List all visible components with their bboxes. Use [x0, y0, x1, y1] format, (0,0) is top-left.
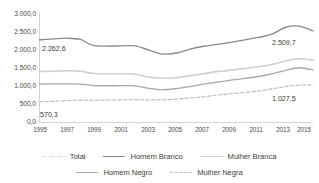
- legend-swatch-homem-branco: [103, 156, 125, 157]
- x-axis-tick-label: 2001: [109, 126, 133, 133]
- legend-swatch-total: [43, 156, 65, 157]
- legend-item-total[interactable]: Total: [43, 152, 86, 161]
- x-axis-tick-label: 2007: [190, 126, 214, 133]
- legend-item-mulher-branca[interactable]: Mulher Branca: [201, 152, 277, 161]
- x-axis-tick-label: 2015: [292, 126, 316, 133]
- legend-item-homem-negro[interactable]: Homem Negro: [76, 168, 152, 177]
- legend-label-mulher-negra: Mulher Negra: [197, 168, 242, 177]
- x-axis-tick-label: 1995: [28, 126, 52, 133]
- legend-item-mulher-negra[interactable]: Mulher Negra: [170, 168, 242, 177]
- x-axis-tick-label: 1997: [55, 126, 79, 133]
- data-label-mulher-negra-start: 570,3: [40, 110, 58, 119]
- series-line-total: [40, 59, 314, 78]
- x-axis-tick-label: 2009: [217, 126, 241, 133]
- line-chart: 3.000,0 2.500,0 2.000,0 1.500,0 1.000,0 …: [0, 0, 319, 183]
- legend-row-2: Homem Negro Mulher Negra: [0, 164, 319, 180]
- legend-swatch-homem-negro: [76, 172, 98, 173]
- legend-swatch-mulher-branca: [201, 156, 223, 157]
- legend-label-homem-branco: Homem Branco: [130, 152, 182, 161]
- legend-label-homem-negro: Homem Negro: [103, 168, 152, 177]
- x-axis-tick-label: 1999: [82, 126, 106, 133]
- legend-label-mulher-branca: Mulher Branca: [228, 152, 277, 161]
- chart-legend: Total Homem Branco Mulher Branca Homem N…: [0, 148, 319, 180]
- x-axis-tick-label: 2005: [163, 126, 187, 133]
- legend-label-total: Total: [70, 152, 86, 161]
- legend-swatch-mulher-negra: [170, 172, 192, 173]
- series-line-mulher-branca: [40, 59, 314, 78]
- data-label-mulher-negra-end: 1.027,5: [272, 94, 296, 103]
- legend-row-1: Total Homem Branco Mulher Branca: [0, 148, 319, 164]
- x-axis-tick-label: 2011: [244, 126, 268, 133]
- x-axis-tick-label: 2003: [136, 126, 160, 133]
- data-label-homem-branco-end: 2.509,7: [272, 38, 296, 47]
- data-label-homem-branco-start: 2.262,6: [42, 44, 66, 53]
- legend-item-homem-branco[interactable]: Homem Branco: [103, 152, 182, 161]
